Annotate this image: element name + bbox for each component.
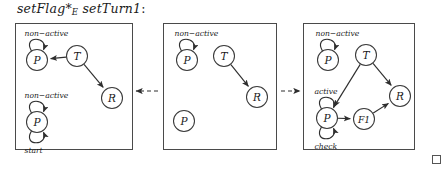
node-p: P [27, 50, 48, 71]
graph-layer: non−activenon−activestartnon−activenon−a… [0, 0, 448, 171]
self-loop-label: active [315, 87, 339, 96]
node-p: P [177, 50, 198, 71]
node-r: R [102, 88, 123, 109]
self-loop-label: check [315, 142, 338, 151]
node-label: R [252, 91, 261, 103]
node-label: T [220, 50, 228, 62]
self-loop-label: non−active [25, 91, 69, 100]
self-loop-label: start [25, 146, 44, 155]
node-label: F1 [357, 114, 370, 125]
node-f1: F1 [354, 109, 375, 130]
figure-canvas: setFlag*E setTurn1: non−activenon−active… [0, 0, 448, 171]
node-label: P [182, 54, 191, 66]
edge-t1-to-p1 [51, 57, 66, 59]
node-p: P [318, 50, 339, 71]
node-t: T [67, 46, 88, 67]
node-r: R [390, 86, 411, 107]
end-of-proof-box [432, 155, 441, 164]
node-r: R [247, 87, 268, 108]
edge-t1-to-r1 [84, 64, 103, 87]
node-label: T [73, 50, 81, 62]
self-loop-label: non−active [25, 29, 69, 38]
nodes-group: PTRPPTRPPTRPF1 [27, 45, 411, 133]
edge-f1-to-r1 [373, 103, 388, 113]
node-p: P [174, 111, 195, 132]
edge-t1-to-p2 [334, 64, 360, 106]
node-label: P [322, 112, 331, 124]
node-label: T [362, 49, 370, 61]
node-label: P [32, 116, 41, 128]
node-label: R [395, 90, 404, 102]
node-label: P [323, 54, 332, 66]
node-t: T [356, 45, 377, 66]
edge-t1-to-r1 [231, 65, 249, 87]
node-p: P [27, 112, 48, 133]
node-label: R [107, 92, 116, 104]
node-label: P [179, 115, 188, 127]
node-p: P [317, 108, 338, 129]
edge-t1-to-r1 [373, 63, 391, 85]
self-loop-label: non−active [175, 29, 219, 38]
self-loop-label: non−active [316, 29, 360, 38]
node-label: P [32, 54, 41, 66]
node-t: T [214, 46, 235, 67]
